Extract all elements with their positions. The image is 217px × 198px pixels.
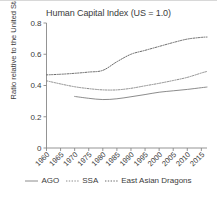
plot-area: 00.20.40.60.8 19601965197019751980198519… (0, 1, 217, 198)
y-axis-ticks: 00.20.40.60.8 (30, 19, 46, 153)
y-tick-label: 0.4 (30, 81, 42, 90)
legend-label-ago: AGO (41, 177, 59, 185)
legend-label-ssa: SSA (82, 177, 98, 185)
legend-label-east-asian-dragons: East Asian Dragons (121, 177, 191, 185)
human-capital-index-chart: Human Capital Index (US = 1.0) Ratio rel… (0, 0, 217, 198)
legend-swatch-ago (25, 178, 38, 184)
y-tick-label: 0.8 (30, 19, 42, 28)
y-tick-label: 0.6 (30, 50, 42, 59)
chart-legend: AGO SSA East Asian Dragons (0, 177, 217, 185)
legend-swatch-east-asian-dragons (105, 178, 118, 184)
y-tick-label: 0.2 (30, 113, 42, 122)
y-tick-label: 0 (37, 144, 42, 153)
legend-item-ago[interactable]: AGO (25, 177, 59, 185)
x-axis-ticks: 1960196519701975198019851990199520002005… (33, 148, 206, 168)
series-line-ssa (47, 71, 208, 90)
x-tick-label: 2015 (188, 150, 206, 168)
legend-item-east-asian-dragons[interactable]: East Asian Dragons (105, 177, 191, 185)
legend-swatch-ssa (66, 178, 79, 184)
series-line-ago (75, 87, 207, 100)
legend-item-ssa[interactable]: SSA (66, 177, 98, 185)
data-series (47, 37, 208, 100)
series-line-east-asian-dragons (47, 37, 208, 75)
